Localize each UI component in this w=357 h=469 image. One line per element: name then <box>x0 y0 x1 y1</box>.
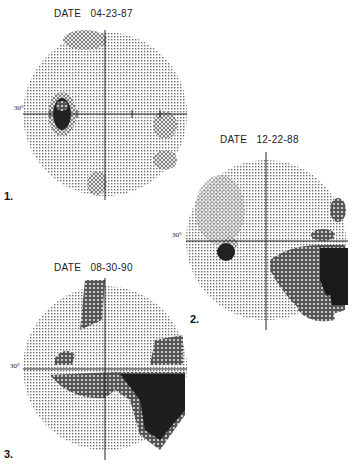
visual-field-panel-1: DATE 04-23-87 30° 1. <box>0 0 200 200</box>
panel-2-axis-label: 30° <box>172 231 182 239</box>
visual-field-plot-1 <box>0 0 200 200</box>
visual-field-panel-2: DATE 12-22-88 30° 2. <box>180 130 357 340</box>
visual-field-panel-3: DATE 08-30-90 30° 3. <box>0 250 200 469</box>
visual-field-plot-3 <box>0 250 200 469</box>
panel-1-number: 1. <box>4 190 13 202</box>
panel-3-axis-label: 30° <box>10 362 20 370</box>
panel-1-axis-label: 30° <box>14 104 24 112</box>
visual-field-plot-2 <box>180 130 357 340</box>
panel-3-number: 3. <box>4 448 13 460</box>
